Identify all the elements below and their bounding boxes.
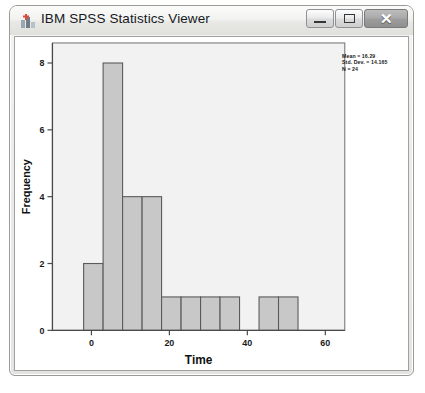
x-tick-label: 60: [320, 338, 330, 348]
histogram-bar: [259, 297, 278, 330]
histogram-bar: [142, 197, 161, 331]
window-title: IBM SPSS Statistics Viewer: [41, 11, 210, 26]
histogram-bar: [220, 297, 239, 330]
y-tick-label: 4: [40, 192, 45, 202]
y-tick-label: 8: [40, 58, 45, 68]
histogram-bar: [279, 297, 298, 330]
viewer-document-area[interactable]: 020406002468TimeFrequency Mean = 16.29 S…: [14, 36, 409, 371]
window-titlebar[interactable]: IBM SPSS Statistics Viewer ✕: [10, 6, 413, 35]
x-tick-label: 0: [89, 338, 94, 348]
histogram-bar: [201, 297, 220, 330]
maximize-icon: [344, 14, 355, 23]
close-icon: ✕: [365, 10, 407, 27]
minimize-icon: [314, 21, 326, 23]
histogram-bar: [181, 297, 200, 330]
y-tick-label: 6: [40, 125, 45, 135]
spss-viewer-window: IBM SPSS Statistics Viewer ✕ 02040600246…: [9, 5, 414, 376]
y-tick-label: 0: [40, 326, 45, 336]
histogram-bar: [103, 63, 122, 330]
minimize-button[interactable]: [306, 9, 334, 28]
histogram-chart: 020406002468TimeFrequency: [15, 37, 408, 370]
histogram-bar: [84, 264, 103, 331]
histogram-bar: [123, 197, 142, 331]
statistics-annotation: Mean = 16.29 Std. Dev. = 14.165 N = 24: [342, 53, 387, 72]
stat-std-dev: Std. Dev. = 14.165: [342, 59, 387, 65]
spss-app-icon: [20, 13, 36, 29]
x-axis-title: Time: [185, 353, 213, 367]
maximize-button[interactable]: [335, 9, 363, 28]
stat-n: N = 24: [342, 66, 387, 72]
window-controls: ✕: [306, 9, 408, 28]
y-tick-label: 2: [40, 259, 45, 269]
x-tick-label: 40: [242, 338, 252, 348]
x-tick-label: 20: [164, 338, 174, 348]
histogram-bar: [162, 297, 181, 330]
close-button[interactable]: ✕: [364, 9, 408, 28]
y-axis-title: Frequency: [20, 159, 32, 214]
